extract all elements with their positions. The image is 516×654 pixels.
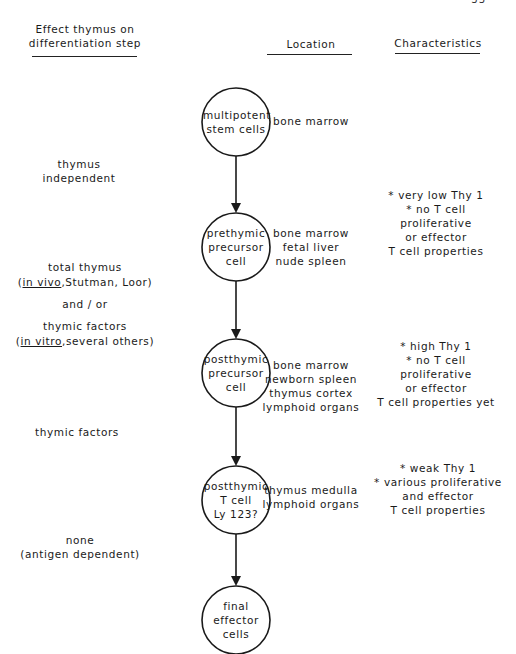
stage-5-cell-line1: final [203, 599, 269, 613]
transition-2-line1: total thymus [16, 260, 154, 275]
stage-2-location: bone marrow fetal liver nude spleen [273, 226, 349, 268]
stage-3-cell-line3: cell [203, 380, 269, 394]
stage-4-cell-label: postthymic T cell Ly 123? [203, 479, 269, 521]
stage-2-char-line1: * very low Thy 1 [388, 188, 483, 202]
arrow-head-1 [231, 203, 241, 213]
stage-2-characteristics: * very low Thy 1 * no T cell proliferati… [388, 188, 483, 258]
stage-2-char-line3: proliferative [388, 216, 483, 230]
arrow-head-2 [231, 329, 241, 339]
transition-4-effect: none (antigen dependent) [20, 533, 140, 561]
stage-4-char-line4: T cell properties [374, 503, 502, 517]
stage-4-char-line3: and effector [374, 489, 502, 503]
stage-5-cell-label: final effector cells [203, 599, 269, 641]
stage-2-cell-line2: precursor [203, 240, 269, 254]
stage-3-char-line2: * no T cell [377, 353, 494, 367]
stage-3-cell-label: postthymic precursor cell [203, 352, 269, 394]
stage-4-characteristics: * weak Thy 1 * various proliferative and… [374, 461, 502, 517]
stage-1-location: bone marrow [273, 114, 349, 128]
stage-3-char-line3: proliferative [377, 367, 494, 381]
stage-1-cell-line1: multipotent [203, 108, 269, 122]
transition-4-line2: (antigen dependent) [20, 547, 140, 561]
arrow-head-3 [231, 456, 241, 466]
transition-1-line1: thymus [43, 157, 116, 171]
transition-2-line3: and / or [16, 297, 154, 312]
stage-5-cell-line2: effector [203, 613, 269, 627]
stage-2-cell-line3: cell [203, 254, 269, 268]
stage-4-cell-line2: T cell [203, 493, 269, 507]
stage-3-location-line4: lymphoid organs [263, 400, 360, 414]
stage-2-location-line1: bone marrow [273, 226, 349, 240]
stage-2-char-line4: or effector [388, 230, 483, 244]
arrow-head-4 [231, 576, 241, 586]
stage-3-location-line1: bone marrow [263, 358, 360, 372]
stage-4-location-line1: thymus medulla [263, 483, 360, 497]
transition-1-line2: independent [43, 171, 116, 185]
stage-2-char-line5: T cell properties [388, 244, 483, 258]
transition-2-line5-rest: ,several others [62, 335, 149, 347]
stage-1-location-line1: bone marrow [273, 114, 349, 128]
transition-2-line2-rest: ,Stutman, Loor [61, 276, 147, 288]
transition-3-line1: thymic factors [35, 425, 119, 439]
stage-1-cell-line2: stem cells [203, 122, 269, 136]
stage-2-location-line3: nude spleen [273, 254, 349, 268]
transition-1-effect: thymus independent [43, 157, 116, 185]
stage-4-char-line2: * various proliferative [374, 475, 502, 489]
stage-2-char-line2: * no T cell [388, 202, 483, 216]
stage-3-char-line5: T cell properties yet [377, 395, 494, 409]
in-vivo-underlined: in vivo [22, 276, 61, 288]
transition-2-line5: (in vitro,several others) [16, 334, 154, 349]
stage-3-location: bone marrow newborn spleen thymus cortex… [263, 358, 360, 414]
stage-3-char-line4: or effector [377, 381, 494, 395]
transition-2-line4: thymic factors [16, 319, 154, 334]
transition-2-line2: (in vivo,Stutman, Loor) [16, 275, 154, 290]
stage-2-cell-label: prethymic precursor cell [203, 226, 269, 268]
stage-3-char-line1: * high Thy 1 [377, 339, 494, 353]
stage-3-cell-line2: precursor [203, 366, 269, 380]
stage-3-location-line3: thymus cortex [263, 386, 360, 400]
stage-3-cell-line1: postthymic [203, 352, 269, 366]
transition-4-line1: none [20, 533, 140, 547]
stage-4-cell-line1: postthymic [203, 479, 269, 493]
stage-5-cell-line3: cells [203, 627, 269, 641]
stage-4-location: thymus medulla lymphoid organs [263, 483, 360, 511]
stage-3-characteristics: * high Thy 1 * no T cell proliferative o… [377, 339, 494, 409]
stage-1-cell-label: multipotent stem cells [203, 108, 269, 136]
stage-3-location-line2: newborn spleen [263, 372, 360, 386]
stage-4-char-line1: * weak Thy 1 [374, 461, 502, 475]
stage-4-cell-line3: Ly 123? [203, 507, 269, 521]
stage-2-cell-line1: prethymic [203, 226, 269, 240]
stage-2-location-line2: fetal liver [273, 240, 349, 254]
transition-3-effect: thymic factors [35, 425, 119, 439]
transition-2-effect: total thymus (in vivo,Stutman, Loor) and… [16, 260, 154, 349]
in-vitro-underlined: in vitro [21, 335, 62, 347]
stage-4-location-line2: lymphoid organs [263, 497, 360, 511]
